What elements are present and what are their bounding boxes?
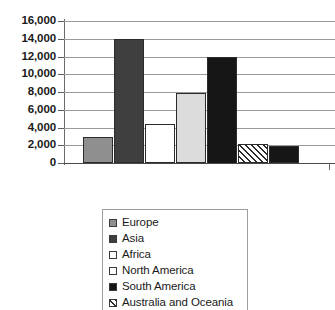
legend-swatch-icon [109, 251, 117, 259]
legend-swatch-icon [109, 299, 117, 307]
y-axis-tick-labels: 16,00014,00012,00010,0008,0006,0004,0002… [0, 0, 56, 200]
chart-legend: EuropeAsiaAfricaNorth AmericaSouth Ameri… [102, 209, 248, 310]
legend-item[interactable]: Australia and Oceania [109, 295, 247, 310]
bar [83, 137, 113, 163]
legend-item-label: South America [122, 281, 196, 293]
y-axis-tick-label: 6,000 [0, 104, 56, 116]
bar [207, 57, 237, 164]
legend-item-label: Asia [122, 233, 144, 245]
x-axis-baseline [64, 163, 335, 164]
y-axis-tick-label: 14,000 [0, 33, 56, 45]
y-axis-tick-label: 2,000 [0, 140, 56, 152]
legend-swatch-icon [109, 283, 117, 291]
legend-swatch-icon [109, 267, 117, 275]
bar [114, 39, 144, 163]
y-axis-tick-label: 10,000 [0, 69, 56, 81]
legend-item[interactable]: Asia [109, 231, 247, 247]
x-axis-end-cap [329, 163, 330, 170]
legend-item[interactable]: Europe [109, 215, 247, 231]
legend-item-label: Africa [122, 249, 151, 261]
y-axis-tick-label: 0 [0, 157, 56, 169]
bar-chart: 16,00014,00012,00010,0008,0006,0004,0002… [0, 0, 335, 310]
legend-item[interactable]: Africa [109, 247, 247, 263]
legend-swatch-icon [109, 235, 117, 243]
bar [238, 144, 268, 163]
legend-item[interactable]: North America [109, 263, 247, 279]
y-axis-tick-label: 16,000 [0, 15, 56, 27]
y-axis-tick-label: 4,000 [0, 122, 56, 134]
y-axis-tick-label: 8,000 [0, 86, 56, 98]
legend-item-label: North America [122, 265, 194, 277]
plot-area: 16,00014,00012,00010,0008,0006,0004,0002… [0, 0, 335, 200]
legend-item-label: Australia and Oceania [122, 297, 233, 309]
bar [145, 124, 175, 163]
legend-item[interactable]: South America [109, 279, 247, 295]
legend-swatch-icon [109, 219, 117, 227]
bar [269, 146, 299, 163]
bar [176, 93, 206, 163]
y-axis-tick-label: 12,000 [0, 51, 56, 63]
legend-item-label: Europe [122, 217, 158, 229]
grid-and-bars [64, 0, 335, 200]
bars-layer [64, 0, 335, 200]
